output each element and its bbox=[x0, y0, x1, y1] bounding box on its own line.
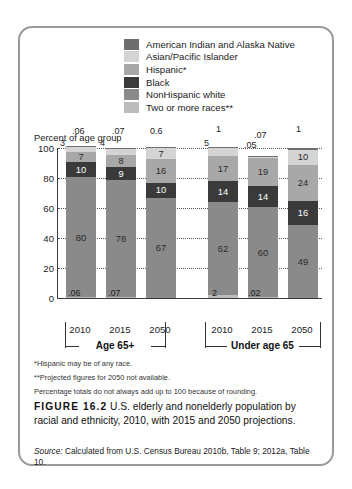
legend-label: Black bbox=[146, 77, 169, 88]
legend-swatch-icon bbox=[124, 51, 139, 62]
y-tick-label: 100 bbox=[38, 143, 54, 154]
bar-callout-label: 5 bbox=[204, 138, 209, 148]
y-tick-label: 40 bbox=[43, 233, 54, 244]
bar-segment-value: 16 bbox=[156, 166, 166, 175]
figure-source: Source: Calculated from U.S. Census Bure… bbox=[34, 446, 314, 468]
figure-caption: FIGURE 16.2 U.S. elderly and nonelderly … bbox=[34, 400, 312, 427]
bar-segment: 16 bbox=[288, 201, 318, 225]
bar-segment-value: 14 bbox=[218, 187, 228, 196]
stacked-bar[interactable]: 7161067 bbox=[146, 147, 176, 298]
group-bracket-line bbox=[151, 346, 165, 347]
bar-callout-label: 1 bbox=[216, 124, 221, 134]
bar-segment: 80 bbox=[66, 177, 96, 297]
bar-segment: 7 bbox=[146, 148, 176, 159]
bar-segment: 8 bbox=[106, 155, 136, 167]
bar-segment-value: 80 bbox=[76, 233, 86, 242]
bar-segment: 49 bbox=[288, 225, 318, 299]
legend-label: Two or more races** bbox=[146, 102, 233, 113]
group-label: Age 65+ bbox=[81, 340, 149, 351]
group-bracket-tick bbox=[320, 322, 321, 348]
x-tick-label: 2015 bbox=[103, 324, 137, 335]
group-bracket-line bbox=[65, 346, 79, 347]
bar-segment: 62 bbox=[208, 202, 238, 295]
footnote: Percentage totals do not always add up t… bbox=[34, 388, 322, 397]
bar-segment-value: 24 bbox=[298, 178, 308, 187]
x-tick-label: 2010 bbox=[63, 324, 97, 335]
legend-label: Hispanic* bbox=[146, 64, 187, 75]
stacked-bar[interactable]: 71080 bbox=[66, 146, 96, 298]
bar-callout-label-bottom: 2 bbox=[212, 288, 217, 298]
legend-item: NonHispanic white bbox=[124, 88, 295, 101]
group-bracket-line bbox=[299, 346, 321, 347]
chart-legend: American Indian and Alaska NativeAsian/P… bbox=[124, 38, 295, 114]
plot-panel: 710808978716106717146219146010241649 .06… bbox=[57, 148, 322, 299]
x-tick-label: 2050 bbox=[285, 324, 319, 335]
y-tick-label: 0 bbox=[49, 293, 54, 304]
y-tick-label: 60 bbox=[43, 203, 54, 214]
legend-swatch-icon bbox=[124, 102, 139, 113]
y-axis-tick-labels: 020406080100 bbox=[34, 148, 54, 298]
stacked-bar[interactable]: 8978 bbox=[106, 148, 136, 298]
bar-segment-value: 10 bbox=[298, 152, 308, 161]
footnote: **Projected figures for 2050 not availab… bbox=[34, 374, 322, 383]
bar-segment-value: 78 bbox=[116, 234, 126, 243]
legend-label: Asian/Pacific Islander bbox=[146, 51, 238, 62]
legend-item: Hispanic* bbox=[124, 63, 295, 76]
bar-segment-value: 10 bbox=[156, 185, 166, 194]
bar-segment-value: 60 bbox=[258, 248, 268, 257]
bar-segment: 16 bbox=[146, 159, 176, 183]
bar-segment: 9 bbox=[106, 167, 136, 181]
plot-area: 020406080100 710808978716106717146219146… bbox=[34, 148, 322, 320]
y-tick-label: 20 bbox=[43, 263, 54, 274]
group-bracket-tick bbox=[205, 322, 206, 348]
legend-label: American Indian and Alaska Native bbox=[146, 39, 295, 50]
stacked-bar[interactable]: 171462 bbox=[208, 147, 238, 299]
bar-callout-label: .07 bbox=[112, 126, 125, 136]
bar-segment-value: 49 bbox=[298, 257, 308, 266]
bar-segment: 10 bbox=[288, 150, 318, 165]
bar-callout-label: 1 bbox=[296, 124, 301, 134]
bar-segment-value: 17 bbox=[218, 164, 228, 173]
source-label: Source: bbox=[34, 446, 63, 456]
bar-segment: 19 bbox=[248, 158, 278, 187]
bar-segment bbox=[208, 148, 238, 156]
source-text: Calculated from U.S. Census Bureau 2010b… bbox=[34, 446, 310, 467]
bar-callout-label: 3 bbox=[60, 138, 65, 148]
bar-callout-label: 0.6 bbox=[150, 126, 163, 136]
figure-number: FIGURE 16.2 bbox=[34, 401, 107, 412]
legend-label: NonHispanic white bbox=[146, 89, 225, 100]
bar-segment-value: 19 bbox=[258, 167, 268, 176]
bar-segment: 14 bbox=[248, 186, 278, 207]
bar-segment-value: 67 bbox=[156, 243, 166, 252]
group-bracket-tick bbox=[165, 322, 166, 348]
legend-item: Asian/Pacific Islander bbox=[124, 51, 295, 64]
legend-item: Black bbox=[124, 76, 295, 89]
figure-container: American Indian and Alaska NativeAsian/P… bbox=[18, 26, 334, 466]
bar-segment: 10 bbox=[66, 162, 96, 177]
legend-swatch-icon bbox=[124, 64, 139, 75]
bar-segment: 78 bbox=[106, 180, 136, 297]
bar-callout-label-bottom: .06 bbox=[68, 288, 81, 298]
bar-segment-value: 8 bbox=[118, 156, 123, 165]
x-tick-label: 2050 bbox=[143, 324, 177, 335]
bar-callout-label: .07 bbox=[254, 130, 267, 140]
legend-item: American Indian and Alaska Native bbox=[124, 38, 295, 51]
legend-swatch-icon bbox=[124, 89, 139, 100]
group-label: Under age 65 bbox=[229, 340, 297, 351]
stacked-bar[interactable]: 10241649 bbox=[288, 148, 318, 298]
bar-segment: 10 bbox=[146, 183, 176, 198]
bar-callout-label-bottom: .02 bbox=[248, 288, 261, 298]
x-tick-label: 2015 bbox=[245, 324, 279, 335]
footnotes: *Hispanic may be of any race.**Projected… bbox=[34, 360, 322, 402]
bar-callout-label: .06 bbox=[72, 126, 85, 136]
bar-segment: 7 bbox=[66, 152, 96, 163]
bar-callout-label-bottom: .07 bbox=[108, 288, 121, 298]
bar-segment-value: 7 bbox=[158, 149, 163, 158]
bar-segment-value: 14 bbox=[258, 192, 268, 201]
stacked-bar[interactable]: 191460 bbox=[248, 156, 278, 298]
bar-segment: 67 bbox=[146, 198, 176, 299]
y-tick-label: 80 bbox=[43, 173, 54, 184]
bar-segment-value: 16 bbox=[298, 208, 308, 217]
bar-segment-value: 62 bbox=[218, 244, 228, 253]
bar-segment-value: 7 bbox=[78, 152, 83, 161]
